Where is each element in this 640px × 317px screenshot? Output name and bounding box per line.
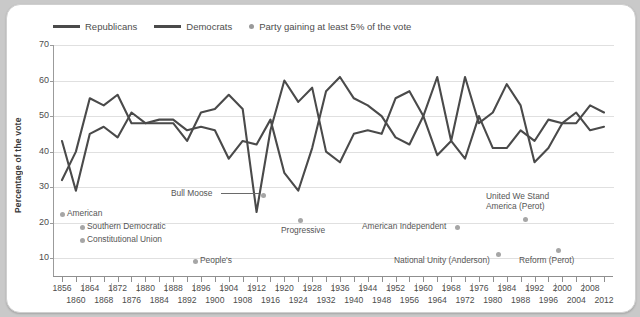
x-tick-label-1904: 1904 xyxy=(214,283,244,293)
x-tick-1996 xyxy=(548,277,549,282)
x-tick-label-1876: 1876 xyxy=(116,295,146,305)
third-party-dot-swatch xyxy=(249,24,254,29)
x-tick-label-1900: 1900 xyxy=(200,295,230,305)
x-tick-1924 xyxy=(298,277,299,282)
x-tick-1968 xyxy=(451,277,452,282)
x-tick-1984 xyxy=(507,277,508,282)
annotation-american-independent: American Independent xyxy=(362,222,446,232)
x-tick-1884 xyxy=(159,277,160,282)
x-tick-label-1972: 1972 xyxy=(450,295,480,305)
x-tick-label-1980: 1980 xyxy=(478,295,508,305)
annotation-national-unity: National Unity (Anderson) xyxy=(394,256,490,266)
annotation-united-we-stand-2: America (Perot) xyxy=(486,202,545,212)
x-tick-label-1952: 1952 xyxy=(381,283,411,293)
x-tick-1972 xyxy=(465,277,466,282)
annotation-dot-american-independent xyxy=(455,225,460,230)
annotation-dot-american xyxy=(60,212,65,217)
annotation-leader-bull-moose xyxy=(221,193,259,194)
y-tick-label-20: 20 xyxy=(28,217,49,227)
x-tick-1904 xyxy=(229,277,230,282)
annotation-bull-moose: Bull Moose xyxy=(171,189,212,199)
annotation-dot-southern-democratic xyxy=(80,225,85,230)
x-tick-label-1908: 1908 xyxy=(228,295,258,305)
x-tick-label-2000: 2000 xyxy=(547,283,577,293)
annotation-dot-bull-moose xyxy=(261,193,266,198)
x-tick-2008 xyxy=(590,277,591,282)
x-axis-line xyxy=(53,276,613,277)
y-tick-label-30: 30 xyxy=(28,181,49,191)
x-tick-1964 xyxy=(437,277,438,282)
x-tick-1912 xyxy=(257,277,258,282)
y-tick-label-70: 70 xyxy=(28,39,49,49)
x-tick-label-1940: 1940 xyxy=(339,295,369,305)
x-tick-label-1960: 1960 xyxy=(408,283,438,293)
x-tick-label-1988: 1988 xyxy=(506,295,536,305)
annotation-dot-constitutional-union xyxy=(80,238,85,243)
x-tick-1928 xyxy=(312,277,313,282)
legend-item-republicans: Republicans xyxy=(53,21,137,32)
x-tick-2004 xyxy=(576,277,577,282)
x-tick-1876 xyxy=(131,277,132,282)
x-tick-1944 xyxy=(368,277,369,282)
x-tick-label-1916: 1916 xyxy=(255,295,285,305)
legend-item-third-party: Party gaining at least 5% of the vote xyxy=(249,21,411,32)
x-tick-label-1984: 1984 xyxy=(492,283,522,293)
x-tick-label-1864: 1864 xyxy=(75,283,105,293)
y-tick-label-40: 40 xyxy=(28,146,49,156)
x-tick-label-1860: 1860 xyxy=(61,295,91,305)
x-tick-1916 xyxy=(270,277,271,282)
x-tick-1992 xyxy=(535,277,536,282)
x-tick-label-1888: 1888 xyxy=(158,283,188,293)
x-tick-label-1956: 1956 xyxy=(394,295,424,305)
annotation-constitutional-union: Constitutional Union xyxy=(87,235,162,245)
x-tick-label-1856: 1856 xyxy=(47,283,77,293)
x-tick-1932 xyxy=(326,277,327,282)
x-tick-1888 xyxy=(173,277,174,282)
x-tick-label-1944: 1944 xyxy=(353,283,383,293)
annotation-reform-perot: Reform (Perot) xyxy=(519,256,574,266)
x-tick-1872 xyxy=(118,277,119,282)
chart-legend: Republicans Democrats Party gaining at l… xyxy=(53,18,411,34)
x-tick-1880 xyxy=(145,277,146,282)
x-tick-label-1868: 1868 xyxy=(89,295,119,305)
x-tick-label-1964: 1964 xyxy=(422,295,452,305)
plot-area: 10203040506070 Bull MooseAmericanSouther… xyxy=(53,45,613,276)
x-tick-1980 xyxy=(493,277,494,282)
x-tick-1856 xyxy=(62,277,63,282)
x-tick-1936 xyxy=(340,277,341,282)
x-tick-1952 xyxy=(396,277,397,282)
y-tick-label-10: 10 xyxy=(28,252,49,262)
legend-item-democrats: Democrats xyxy=(154,21,232,32)
x-tick-label-1936: 1936 xyxy=(325,283,355,293)
x-tick-label-2004: 2004 xyxy=(561,295,591,305)
x-tick-label-1872: 1872 xyxy=(103,283,133,293)
annotation-dot-progressive xyxy=(298,218,303,223)
x-tick-label-1884: 1884 xyxy=(144,295,174,305)
x-tick-label-1948: 1948 xyxy=(367,295,397,305)
x-tick-1976 xyxy=(479,277,480,282)
x-tick-label-1976: 1976 xyxy=(464,283,494,293)
annotation-dot-national-unity xyxy=(496,252,501,257)
x-tick-label-1920: 1920 xyxy=(269,283,299,293)
x-tick-1864 xyxy=(90,277,91,282)
x-tick-2000 xyxy=(562,277,563,282)
chart-card: Republicans Democrats Party gaining at l… xyxy=(6,4,636,313)
y-tick-label-60: 60 xyxy=(28,75,49,85)
x-tick-1908 xyxy=(243,277,244,282)
x-tick-label-2012: 2012 xyxy=(589,295,619,305)
y-axis-title: Percentage of the vote xyxy=(13,110,25,220)
x-tick-1940 xyxy=(354,277,355,282)
annotation-progressive: Progressive xyxy=(281,226,325,236)
legend-label-republicans: Republicans xyxy=(85,21,137,32)
x-tick-1868 xyxy=(104,277,105,282)
x-tick-1960 xyxy=(423,277,424,282)
x-tick-label-1932: 1932 xyxy=(311,295,341,305)
legend-label-democrats: Democrats xyxy=(186,21,232,32)
x-tick-label-1880: 1880 xyxy=(130,283,160,293)
x-tick-label-1928: 1928 xyxy=(297,283,327,293)
annotation-southern-democratic: Southern Democratic xyxy=(87,222,166,232)
x-tick-1988 xyxy=(521,277,522,282)
x-tick-label-1996: 1996 xyxy=(533,295,563,305)
legend-label-third-party: Party gaining at least 5% of the vote xyxy=(259,21,411,32)
x-tick-1948 xyxy=(382,277,383,282)
